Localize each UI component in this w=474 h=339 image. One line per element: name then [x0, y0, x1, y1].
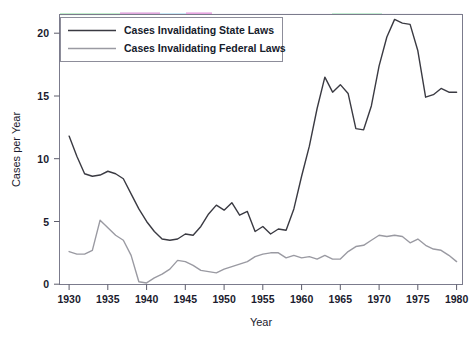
legend: Cases Invalidating State Laws Cases Inva… — [61, 18, 286, 62]
legend-label-federal-laws: Cases Invalidating Federal Laws — [124, 42, 286, 54]
x-tick-label-1955: 1955 — [251, 293, 275, 305]
x-axis-title: Year — [250, 316, 273, 328]
y-tick-label-5: 5 — [43, 216, 49, 228]
y-tick-label-20: 20 — [37, 27, 49, 39]
x-tick-label-1965: 1965 — [329, 293, 353, 305]
y-tick-label-0: 0 — [43, 278, 49, 290]
x-tick-label-1980: 1980 — [445, 293, 469, 305]
x-tick-label-1945: 1945 — [174, 293, 198, 305]
x-tick-label-1935: 1935 — [96, 293, 120, 305]
x-tick-label-1970: 1970 — [367, 293, 391, 305]
x-tick-label-1950: 1950 — [212, 293, 236, 305]
x-tick-label-1960: 1960 — [290, 293, 314, 305]
y-tick-label-15: 15 — [37, 90, 49, 102]
y-tick-label-10: 10 — [37, 153, 49, 165]
legend-label-state-laws: Cases Invalidating State Laws — [124, 24, 274, 36]
x-tick-label-1975: 1975 — [406, 293, 430, 305]
x-tick-label-1930: 1930 — [57, 293, 81, 305]
x-tick-label-1940: 1940 — [135, 293, 159, 305]
y-axis-title: Cases per Year — [10, 112, 22, 188]
line-chart-figure: 0 5 10 15 20 1930 1935 1940 1945 1950 19… — [0, 0, 474, 339]
